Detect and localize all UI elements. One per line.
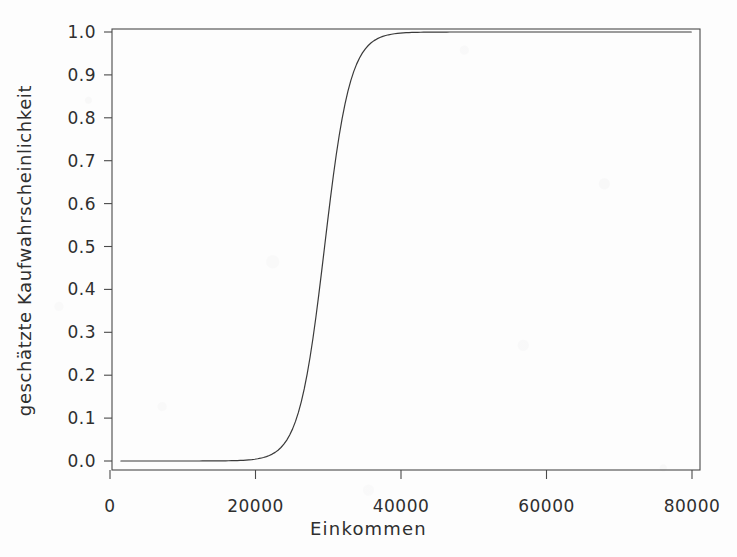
x-axis-ticks — [110, 470, 692, 479]
y-axis-ticks — [104, 32, 112, 461]
x-axis-tick-label: 60000 — [518, 496, 575, 516]
chart-figure: 0.00.10.20.30.40.50.60.70.80.91.0 020000… — [0, 0, 737, 557]
plot-area — [0, 0, 737, 557]
x-axis-tick-label: 80000 — [664, 496, 721, 516]
y-axis-title-text: geschätzte Kaufwahrscheinlichkeit — [15, 84, 36, 415]
logistic-curve — [121, 32, 691, 461]
plot-frame — [112, 29, 700, 470]
x-axis-tick-label: 40000 — [373, 496, 430, 516]
y-axis-title: geschätzte Kaufwahrscheinlichkeit — [10, 0, 40, 500]
x-axis-tick-label: 0 — [104, 496, 115, 516]
x-axis-tick-label: 20000 — [227, 496, 284, 516]
x-axis-title: Einkommen — [0, 518, 737, 539]
